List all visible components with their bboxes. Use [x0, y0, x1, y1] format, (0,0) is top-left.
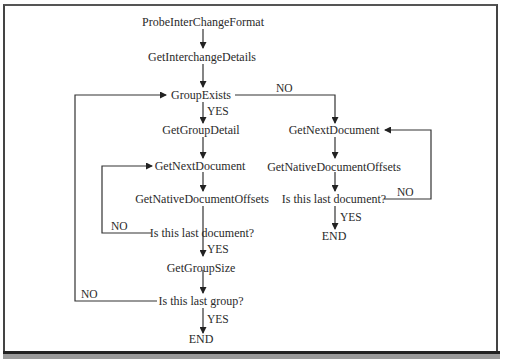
node-get-next-document-left: GetNextDocument	[155, 159, 246, 173]
label-right-last-doc-no: NO	[397, 186, 414, 199]
node-get-native-document-offsets-right: GetNativeDocumentOffsets	[267, 160, 401, 174]
node-get-native-document-offsets-left: GetNativeDocumentOffsets	[135, 192, 269, 206]
node-end-left: END	[189, 332, 214, 346]
node-is-last-document-left: Is this last document?	[150, 226, 254, 240]
label-group-exists-no: NO	[276, 82, 293, 95]
node-is-last-document-right: Is this last document?	[282, 192, 386, 206]
label-left-last-doc-no: NO	[111, 220, 128, 233]
label-right-last-doc-yes: YES	[340, 211, 362, 224]
node-get-interchange-details: GetInterchangeDetails	[148, 50, 256, 64]
node-get-next-document-right: GetNextDocument	[289, 123, 380, 137]
node-get-group-size: GetGroupSize	[167, 261, 236, 275]
label-last-group-no: NO	[81, 288, 98, 301]
node-group-exists: GroupExists	[171, 88, 231, 102]
label-last-group-yes: YES	[207, 313, 229, 326]
label-left-last-doc-yes: YES	[207, 243, 229, 256]
node-end-right: END	[322, 229, 347, 243]
node-probe-interchange-format: ProbeInterChangeFormat	[142, 15, 264, 29]
label-group-exists-yes: YES	[207, 105, 229, 118]
node-get-group-detail: GetGroupDetail	[162, 123, 239, 137]
node-is-last-group: Is this last group?	[159, 294, 244, 308]
